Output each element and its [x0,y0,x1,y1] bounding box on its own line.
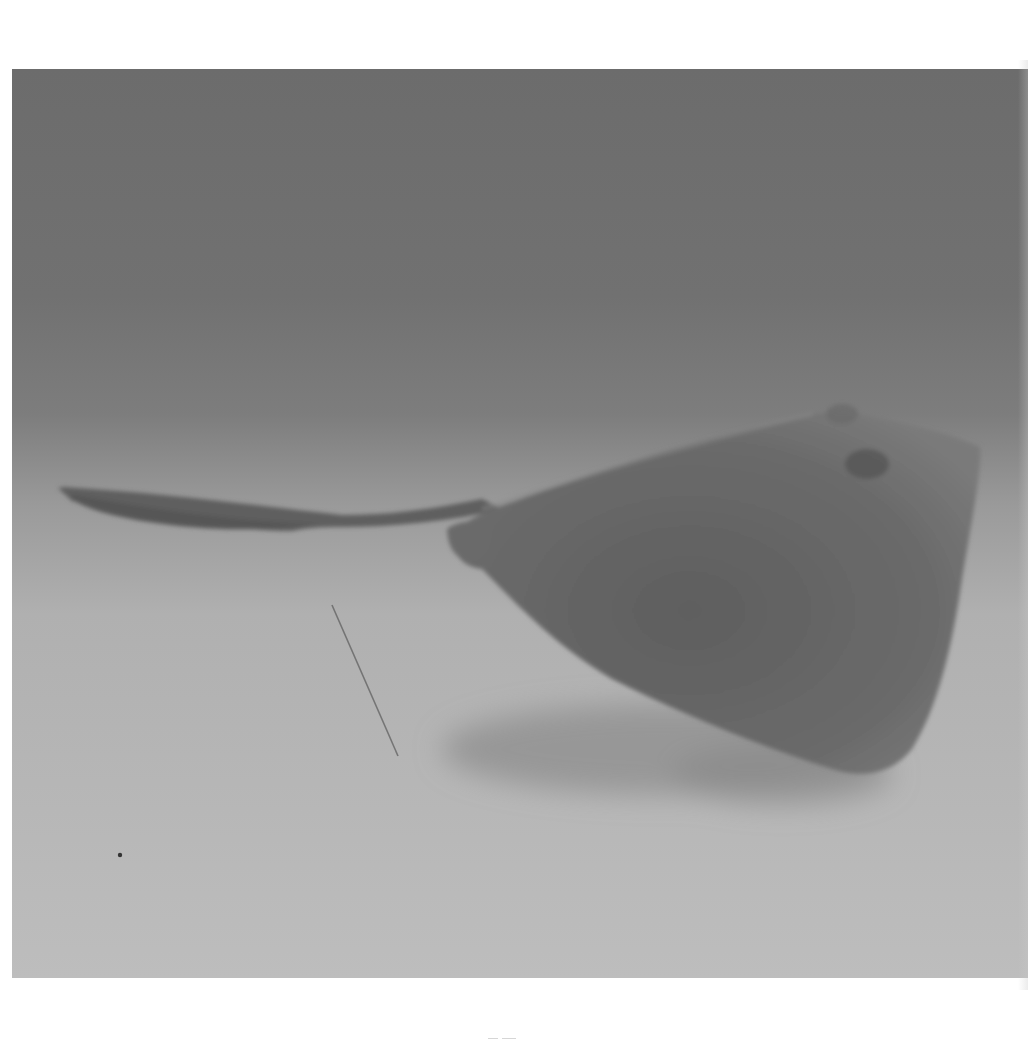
page-gutter-shadow [1018,60,1028,990]
stingray-photo [12,69,1028,978]
footer-text-bleed [488,1030,522,1036]
photograph [12,69,1028,978]
page [0,0,1028,1039]
